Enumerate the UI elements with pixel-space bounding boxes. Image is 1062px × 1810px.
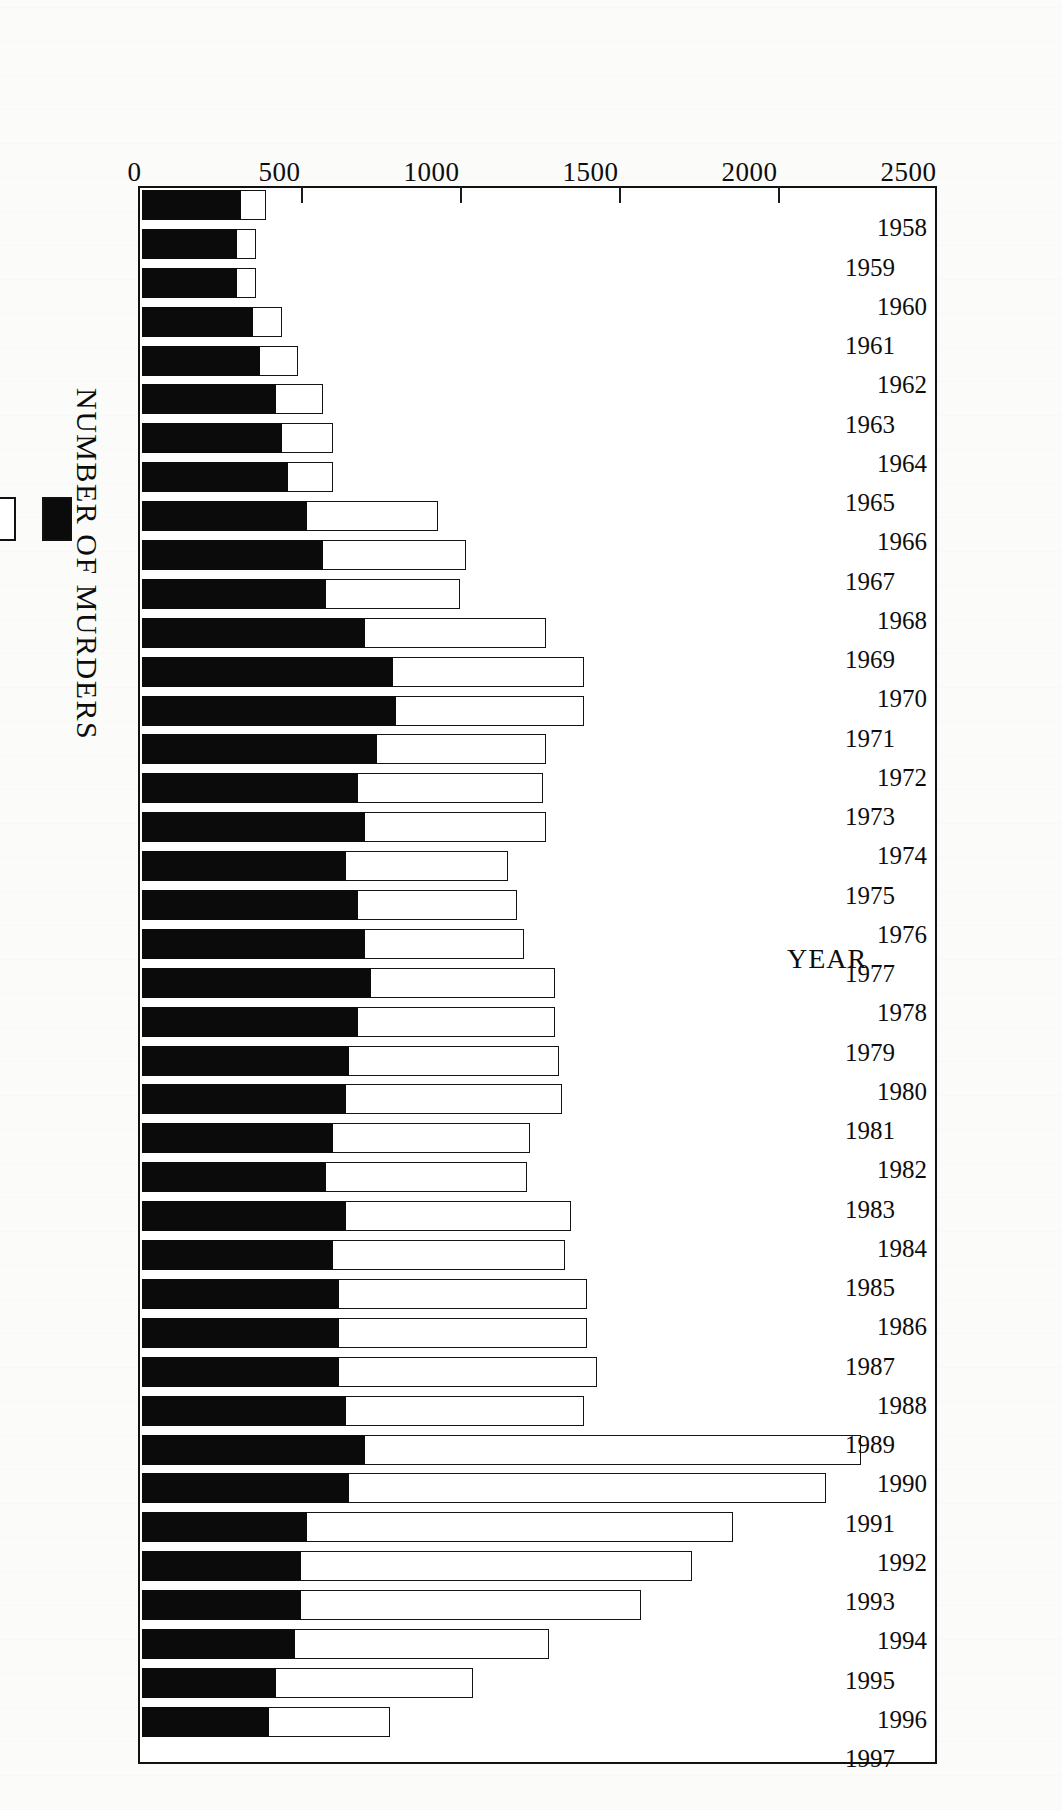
bar-segment-black: [142, 307, 253, 337]
x-axis-label: 1962: [877, 371, 927, 399]
bar-segment-black: [142, 1240, 333, 1270]
x-axis-label: 1978: [877, 999, 927, 1027]
bar-segment-white: [346, 1201, 572, 1231]
bar-segment-white: [253, 307, 282, 337]
bar-segment-black: [142, 1357, 339, 1387]
x-axis-label: 1992: [877, 1549, 927, 1577]
bar-segment-white: [371, 968, 555, 998]
bar-segment-black: [142, 773, 358, 803]
bar-segment-white: [295, 1629, 549, 1659]
bar-segment-black: [142, 1512, 307, 1542]
x-axis-label: 1984: [877, 1235, 927, 1263]
bar-stack: [142, 384, 937, 414]
bar-stack: [142, 1162, 937, 1192]
bar-segment-black: [142, 423, 282, 453]
bar-stack: [142, 1084, 937, 1114]
bar-segment-white: [349, 1473, 826, 1503]
bar-stack: [142, 307, 937, 337]
bar-stack: [142, 1435, 937, 1465]
x-axis-label: 1967: [845, 568, 895, 596]
bar-segment-black: [142, 346, 260, 376]
bar-segment-white: [282, 423, 333, 453]
bar-stack: [142, 890, 937, 920]
bar-segment-black: [142, 1162, 326, 1192]
legend: [0, 497, 72, 557]
bar-stack: [142, 501, 937, 531]
x-axis-label: 1990: [877, 1470, 927, 1498]
x-axis-label: 1986: [877, 1313, 927, 1341]
bar-segment-black: [142, 1629, 295, 1659]
bar-stack: [142, 657, 937, 687]
x-axis-label: 1965: [845, 489, 895, 517]
bar-stack: [142, 540, 937, 570]
bar-stack: [142, 1668, 937, 1698]
bar-segment-black: [142, 1279, 339, 1309]
x-axis-label: 1958: [877, 214, 927, 242]
bar-stack: [142, 773, 937, 803]
bar-stack: [142, 851, 937, 881]
bar-segment-black: [142, 268, 237, 298]
x-axis-label: 1973: [845, 803, 895, 831]
x-axis-label: 1970: [877, 685, 927, 713]
x-axis-title: YEAR: [787, 943, 867, 975]
x-axis-label: 1972: [877, 764, 927, 792]
bar-stack: [142, 462, 937, 492]
x-axis-label: 1994: [877, 1627, 927, 1655]
x-axis-label: 1987: [845, 1353, 895, 1381]
bar-segment-black: [142, 734, 377, 764]
bar-segment-white: [365, 812, 546, 842]
bar-stack: [142, 1357, 937, 1387]
bar-segment-white: [307, 501, 437, 531]
x-axis-label: 1993: [845, 1588, 895, 1616]
bar-segment-black: [142, 1084, 346, 1114]
bar-segment-black: [142, 229, 237, 259]
bar-segment-black: [142, 968, 371, 998]
x-axis-label: 1981: [845, 1117, 895, 1145]
bar-stack: [142, 1123, 937, 1153]
bar-segment-black: [142, 540, 323, 570]
legend-item-black: [42, 497, 72, 557]
x-axis-label: 1971: [845, 725, 895, 753]
bar-stack: [142, 1512, 937, 1542]
bar-segment-black: [142, 1435, 365, 1465]
y-axis-tick-label: 1000: [404, 157, 460, 188]
x-axis-label: 1968: [877, 607, 927, 635]
x-axis-label: 1979: [845, 1039, 895, 1067]
x-axis-label: 1997: [845, 1745, 895, 1773]
bar-segment-white: [323, 540, 466, 570]
x-axis-label: 1995: [845, 1667, 895, 1695]
bar-segment-black: [142, 657, 393, 687]
y-axis-tick-label: 500: [259, 157, 301, 188]
x-axis-label: 1989: [845, 1431, 895, 1459]
bar-stack: [142, 229, 937, 259]
bar-segment-white: [346, 1084, 562, 1114]
bar-segment-white: [358, 1007, 555, 1037]
bar-segment-white: [349, 1046, 559, 1076]
bar-segment-black: [142, 1123, 333, 1153]
bar-segment-black: [142, 1318, 339, 1348]
bar-stack: [142, 1201, 937, 1231]
x-axis-label: 1983: [845, 1196, 895, 1224]
bar-stack: [142, 1046, 937, 1076]
bar-stack: [142, 1590, 937, 1620]
bar-segment-white: [326, 1162, 526, 1192]
bar-stack: [142, 1240, 937, 1270]
bar-segment-white: [269, 1707, 390, 1737]
bar-segment-white: [339, 1357, 597, 1387]
bar-segment-black: [142, 851, 346, 881]
x-axis-label: 1964: [877, 450, 927, 478]
bar-segment-white: [276, 384, 324, 414]
bar-stack: [142, 1318, 937, 1348]
bar-stack: [142, 1551, 937, 1581]
y-axis-tick-label: 1500: [563, 157, 619, 188]
bar-segment-black: [142, 384, 276, 414]
bar-segment-white: [307, 1512, 733, 1542]
x-axis-label: 1988: [877, 1392, 927, 1420]
x-axis-label: 1980: [877, 1078, 927, 1106]
bar-segment-black: [142, 190, 241, 220]
bar-segment-black: [142, 929, 365, 959]
bar-segment-white: [241, 190, 266, 220]
x-axis-label: 1976: [877, 921, 927, 949]
bar-segment-black: [142, 696, 396, 726]
x-axis-label: 1975: [845, 882, 895, 910]
